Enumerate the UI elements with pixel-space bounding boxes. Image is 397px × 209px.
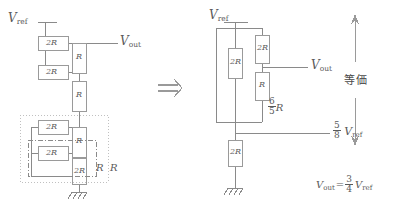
node-voltage-numerator: 5 xyxy=(333,121,341,130)
node-voltage-denominator: 8 xyxy=(333,130,341,140)
resistor-label-R-2R-upper: 2R xyxy=(257,44,268,52)
right-vref-label: Vref xyxy=(209,9,228,21)
right-vout-symbol: V xyxy=(311,58,320,72)
result-equals: = xyxy=(336,179,344,190)
left-vout-subscript: out xyxy=(129,40,141,49)
equivalence-label: 等価 xyxy=(344,75,368,86)
node-voltage-label: 5 8 Vref xyxy=(333,122,362,142)
right-vref-subscript: ref xyxy=(218,14,229,23)
result-fraction: 3 4 xyxy=(345,175,353,195)
left-vref-label: Vref xyxy=(8,12,27,24)
resistor-label-L-R-lower: R xyxy=(76,137,82,145)
result-numerator: 3 xyxy=(345,175,353,184)
node-voltage-subscript: ref xyxy=(352,131,362,139)
result-denominator: 4 xyxy=(345,184,353,194)
left-vout-label: Vout xyxy=(120,35,141,47)
right-vref-symbol: V xyxy=(209,8,218,22)
result-equation: Vout= 3 4 Vref xyxy=(316,176,372,196)
equivalent-resistance-label: 6 5 R xyxy=(268,98,283,118)
right-ground-symbol xyxy=(224,188,243,195)
node-voltage-fraction: 5 8 xyxy=(333,121,341,141)
left-vref-symbol: V xyxy=(8,11,17,25)
right-vout-subscript: out xyxy=(320,64,332,73)
resistor-label-L-2R-bottom: 2R xyxy=(74,167,85,175)
resistor-label-L-R-top: R xyxy=(76,53,82,61)
equivalent-resistance-denominator: 5 xyxy=(268,106,276,116)
result-lhs-subscript: out xyxy=(323,184,335,192)
right-vout-label: Vout xyxy=(311,59,332,71)
dotted-group-r-label: R xyxy=(110,163,118,173)
equivalent-resistance-fraction: 6 5 xyxy=(268,97,276,117)
result-rhs-subscript: ref xyxy=(362,184,372,192)
left-ground-symbol xyxy=(68,192,87,199)
equivalent-resistance-numerator: 6 xyxy=(268,97,276,106)
equivalent-resistance-unit: R xyxy=(276,102,284,113)
resistor-label-L-2R-second: 2R xyxy=(46,68,57,76)
left-vref-subscript: ref xyxy=(17,17,28,26)
transform-arrow-glyph xyxy=(158,79,182,97)
figure-canvas: 2R 2R R R 2R R 2R 2R 2R 2R R 2R Vref Vou… xyxy=(0,0,397,209)
node-voltage-symbol: V xyxy=(344,125,352,138)
left-vout-symbol: V xyxy=(120,34,129,48)
resistor-label-R-2R-left: 2R xyxy=(230,58,241,66)
resistor-label-L-R-mid: R xyxy=(76,91,82,99)
resistor-label-L-2R-top: 2R xyxy=(46,39,57,47)
resistor-label-R-2R-bottom: 2R xyxy=(230,148,241,156)
resistor-label-L-2R-third: 2R xyxy=(46,123,57,131)
dashed-group-r-label: R xyxy=(96,163,104,173)
resistor-label-R-R-lower: R xyxy=(259,81,265,89)
resistor-label-L-2R-fourth: 2R xyxy=(46,149,57,157)
